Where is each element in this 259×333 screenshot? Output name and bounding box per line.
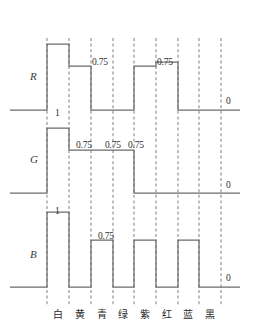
value-label-g-0: 0 (226, 180, 231, 190)
trace-b (10, 212, 240, 287)
column-label-yellow: 黄 (75, 306, 85, 321)
value-label-r-075-b: 0.75 (157, 57, 173, 67)
column-label-green: 绿 (118, 306, 128, 321)
value-label-r-0: 0 (226, 96, 231, 106)
value-label-g-075-c: 0.75 (128, 140, 144, 150)
column-label-red: 红 (162, 306, 172, 321)
column-label-white: 白 (53, 306, 63, 321)
value-label-g-075-a: 0.75 (76, 140, 92, 150)
trace-g (10, 128, 240, 193)
column-label-blue: 蓝 (183, 306, 193, 321)
column-label-magenta: 紫 (140, 306, 150, 321)
channel-label-g: G (30, 153, 38, 165)
value-label-g-1: 1 (55, 108, 60, 118)
column-label-cyan: 青 (97, 306, 107, 321)
waveform-figure: R G B 0.75 0.75 0 1 0.75 0.75 0.75 0 1 0… (0, 0, 259, 333)
value-label-b-1: 1 (55, 206, 60, 216)
value-label-g-075-b: 0.75 (105, 140, 121, 150)
channel-label-r: R (30, 70, 37, 82)
value-label-b-0: 0 (226, 273, 231, 283)
value-label-b-075: 0.75 (98, 231, 114, 241)
column-label-black: 黑 (205, 306, 215, 321)
channel-label-b: B (30, 248, 37, 260)
value-label-r-075-a: 0.75 (92, 57, 108, 67)
trace-r (10, 44, 240, 110)
waveform-plot (0, 0, 259, 333)
